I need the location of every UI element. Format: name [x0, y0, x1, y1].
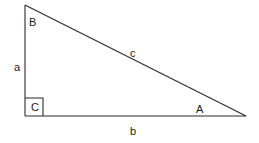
right-triangle-drawing: [0, 0, 259, 143]
side-label-c: c: [130, 48, 136, 59]
geometry-diagram-canvas: B C A a b c: [0, 0, 259, 143]
vertex-label-b: B: [29, 17, 36, 28]
side-c-hypotenuse-line: [25, 5, 246, 116]
vertex-label-c: C: [31, 102, 39, 113]
side-label-a: a: [14, 62, 20, 73]
vertex-label-a: A: [196, 104, 203, 115]
side-label-b: b: [130, 126, 136, 137]
